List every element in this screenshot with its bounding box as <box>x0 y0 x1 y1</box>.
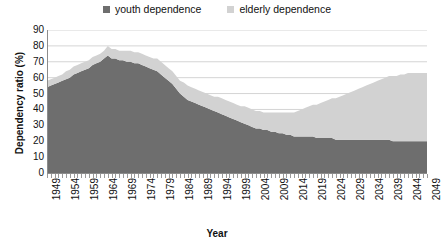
y-axis-title-wrap: Dependency ratio (%) <box>0 68 14 178</box>
y-axis-tick-label: 70 <box>16 57 44 67</box>
legend-label-youth-dependence: youth dependence <box>115 4 201 15</box>
y-axis-tick-label: 80 <box>16 41 44 51</box>
y-axis-tick-label: 0 <box>16 168 44 178</box>
x-axis-tick-labels: 1949195419591964196919741979198419891994… <box>0 178 434 222</box>
x-axis-tick-label: 2004 <box>260 178 272 218</box>
legend-item-elderly-dependence: elderly dependence <box>227 4 331 15</box>
y-axis-tick-label: 40 <box>16 104 44 114</box>
x-axis-tick-label: 2049 <box>431 178 443 218</box>
y-axis-tick-label: 90 <box>16 25 44 35</box>
x-axis-title: Year <box>0 228 434 239</box>
x-axis-tick-label: 1959 <box>89 178 101 218</box>
x-axis-tick-label: 1989 <box>203 178 215 218</box>
square-swatch-icon <box>227 6 234 13</box>
y-axis-tick-label: 20 <box>16 136 44 146</box>
x-axis-tick-label: 2009 <box>279 178 291 218</box>
x-axis-tick-label: 2024 <box>336 178 348 218</box>
x-axis-tick-label: 2039 <box>393 178 405 218</box>
x-axis-tick-label: 1994 <box>222 178 234 218</box>
legend-label-elderly-dependence: elderly dependence <box>239 4 331 15</box>
square-swatch-icon <box>103 6 110 13</box>
x-axis-tick-label: 2014 <box>298 178 310 218</box>
legend-item-youth-dependence: youth dependence <box>103 4 201 15</box>
x-axis-tick-label: 1974 <box>146 178 158 218</box>
x-axis-tick-label: 1999 <box>241 178 253 218</box>
x-axis-tick-label: 1984 <box>184 178 196 218</box>
x-axis-tick-label: 2029 <box>355 178 367 218</box>
y-axis-tick-label: 50 <box>16 89 44 99</box>
plot-area <box>47 30 427 173</box>
x-axis-tick-label: 2044 <box>412 178 424 218</box>
x-axis-tick-label: 1964 <box>108 178 120 218</box>
y-axis-tick-label: 10 <box>16 152 44 162</box>
y-axis-tick-labels: 0102030405060708090 <box>14 24 44 179</box>
x-axis-tick-label: 2034 <box>374 178 386 218</box>
y-axis-tick-label: 30 <box>16 120 44 130</box>
chart-legend: youth dependence elderly dependence <box>0 1 434 17</box>
y-axis-tick-label: 60 <box>16 73 44 83</box>
x-axis-tick-label: 1979 <box>165 178 177 218</box>
x-axis-tick-label: 1954 <box>70 178 82 218</box>
x-axis-tick-label: 1969 <box>127 178 139 218</box>
x-axis-tick-label: 1949 <box>51 178 63 218</box>
x-axis-tick-label: 2019 <box>317 178 329 218</box>
y-axis-line <box>47 30 48 174</box>
stacked-area-plot <box>47 30 427 173</box>
